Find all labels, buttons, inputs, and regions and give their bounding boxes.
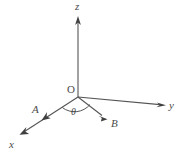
- angle-arc: [62, 105, 90, 112]
- y-axis-label: y: [169, 100, 174, 111]
- diagram-canvas: [0, 0, 180, 164]
- vector-b-label: B: [111, 118, 118, 129]
- vector-a: [42, 112, 51, 120]
- z-axis-label: z: [75, 1, 79, 12]
- angle-theta-label: θ: [71, 107, 76, 117]
- vector-a-label: A: [32, 104, 39, 115]
- y-axis-line: [78, 97, 160, 105]
- vector-b-line: [78, 97, 102, 116]
- vector-b-arrowhead: [99, 116, 108, 122]
- origin-label: O: [67, 84, 75, 95]
- x-axis-label: x: [9, 139, 14, 150]
- vector-b: [78, 97, 108, 122]
- x-axis-arrowhead: [20, 127, 30, 135]
- z-axis: [75, 16, 81, 97]
- vector-diagram-figure: O z y x A B θ: [0, 0, 180, 164]
- y-axis: [78, 97, 166, 107]
- vector-a-arrowhead: [42, 112, 51, 120]
- angle-arc-path: [62, 105, 90, 112]
- x-axis: [20, 97, 79, 135]
